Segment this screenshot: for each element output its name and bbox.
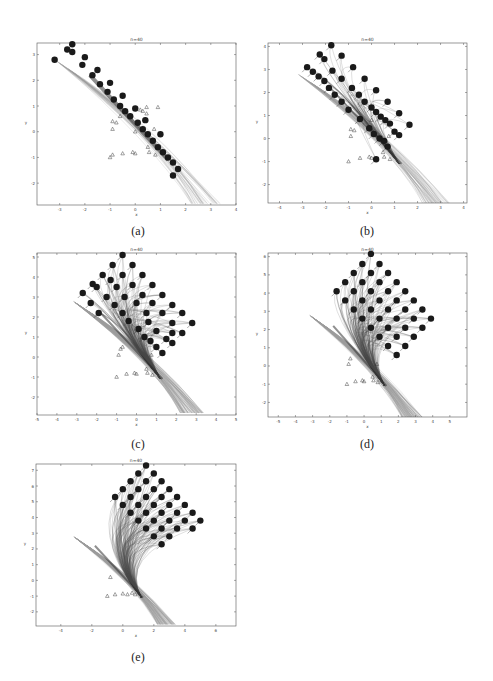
y-tick-label: 3 bbox=[32, 52, 35, 57]
x-tick-label: 3 bbox=[439, 205, 442, 210]
x-tick-label: -1 bbox=[345, 419, 349, 424]
caption-c: (c) bbox=[118, 437, 158, 452]
y-tick-label: 4 bbox=[31, 515, 34, 520]
x-axis-label: x bbox=[135, 212, 138, 217]
x-tick-label: -2 bbox=[83, 207, 87, 212]
caption-e: (e) bbox=[118, 650, 158, 665]
x-tick-label: 4 bbox=[184, 628, 187, 633]
y-tick-label: 1 bbox=[32, 104, 35, 109]
x-tick-label: -4 bbox=[278, 205, 282, 210]
x-tick-label: 2 bbox=[184, 207, 187, 212]
y-tick-label: -2 bbox=[31, 181, 35, 186]
y-tick-label: -2 bbox=[31, 395, 35, 400]
panel-c: -5-4-3-2-1012345-2-1012345xyn=40 bbox=[23, 245, 240, 429]
y-tick-label: 5 bbox=[263, 272, 266, 277]
caption-a: (a) bbox=[118, 224, 158, 239]
y-tick-label: 3 bbox=[32, 295, 35, 300]
x-tick-label: -2 bbox=[90, 628, 94, 633]
y-tick-label: 0 bbox=[263, 363, 266, 368]
x-tick-label: 1 bbox=[155, 417, 158, 422]
x-tick-label: 0 bbox=[122, 628, 125, 633]
y-tick-label: 5 bbox=[31, 499, 34, 504]
triangle-markers bbox=[108, 105, 159, 158]
y-tick-label: 1 bbox=[31, 562, 34, 567]
x-tick-label: 4 bbox=[462, 205, 465, 210]
x-axis-label: x bbox=[366, 210, 369, 215]
x-tick-label: 4 bbox=[235, 207, 238, 212]
x-tick-label: 0 bbox=[370, 205, 373, 210]
plot-b: -4-3-2-101234-2-101234xyn=40 bbox=[254, 35, 471, 217]
y-tick-label: 1 bbox=[32, 335, 35, 340]
y-tick-label: -2 bbox=[262, 400, 266, 405]
panel-a: -3-2-101234-2-10123xyn=40 bbox=[23, 35, 240, 219]
y-tick-label: -2 bbox=[262, 182, 266, 187]
y-tick-label: 4 bbox=[263, 44, 266, 49]
x-tick-label: 1 bbox=[159, 207, 162, 212]
x-tick-label: -1 bbox=[347, 205, 351, 210]
y-axis-label: y bbox=[256, 331, 259, 336]
trajectory-lines bbox=[55, 60, 220, 203]
x-tick-label: 4 bbox=[215, 417, 218, 422]
x-tick-label: 3 bbox=[210, 207, 213, 212]
y-tick-label: 6 bbox=[263, 254, 266, 259]
x-tick-label: -2 bbox=[95, 417, 99, 422]
trajectory-lines bbox=[298, 45, 450, 203]
y-tick-label: 0 bbox=[32, 129, 35, 134]
x-tick-label: -1 bbox=[115, 417, 119, 422]
plot-title: n=40 bbox=[130, 37, 142, 42]
y-tick-label: 2 bbox=[263, 90, 266, 95]
y-tick-label: 3 bbox=[263, 309, 266, 314]
x-tick-label: 2 bbox=[416, 205, 419, 210]
y-axis-label: y bbox=[256, 119, 259, 124]
x-tick-label: -4 bbox=[293, 419, 297, 424]
y-tick-label: 0 bbox=[263, 136, 266, 141]
y-axis-label: y bbox=[25, 120, 28, 125]
y-tick-label: 4 bbox=[263, 291, 266, 296]
y-tick-label: 2 bbox=[32, 315, 35, 320]
y-tick-label: -1 bbox=[31, 155, 35, 160]
x-axis-label: x bbox=[135, 633, 138, 638]
x-axis-label: x bbox=[366, 424, 369, 429]
y-tick-label: 6 bbox=[31, 484, 34, 489]
plot-a: -3-2-101234-2-10123xyn=40 bbox=[23, 35, 240, 219]
x-tick-label: -4 bbox=[55, 417, 59, 422]
x-tick-label: -4 bbox=[59, 628, 63, 633]
y-tick-label: 0 bbox=[32, 355, 35, 360]
caption-d: (d) bbox=[347, 437, 387, 452]
y-tick-label: -1 bbox=[30, 594, 34, 599]
plot-title: n=40 bbox=[130, 458, 142, 463]
panel-b: -4-3-2-101234-2-101234xyn=40 bbox=[254, 35, 471, 217]
x-tick-label: -3 bbox=[58, 207, 62, 212]
plot-d: -5-4-3-2-1012345-2-10123456xyn=40 bbox=[254, 245, 471, 431]
x-tick-label: 4 bbox=[431, 419, 434, 424]
caption-b: (b) bbox=[347, 224, 387, 239]
x-tick-label: 3 bbox=[414, 419, 417, 424]
y-tick-label: -1 bbox=[31, 375, 35, 380]
plot-e: -4-20246-2-101234567xyn=40 bbox=[22, 456, 240, 640]
y-axis-label: y bbox=[25, 330, 28, 335]
x-tick-label: 2 bbox=[397, 419, 400, 424]
x-tick-label: 2 bbox=[175, 417, 178, 422]
x-tick-label: 3 bbox=[195, 417, 198, 422]
x-tick-label: 5 bbox=[235, 417, 238, 422]
x-tick-label: 6 bbox=[215, 628, 218, 633]
plot-title: n=40 bbox=[361, 37, 373, 42]
x-tick-label: -3 bbox=[301, 205, 305, 210]
x-tick-label: -5 bbox=[35, 417, 39, 422]
y-tick-label: 1 bbox=[263, 113, 266, 118]
y-tick-label: 2 bbox=[32, 78, 35, 83]
plot-title: n=40 bbox=[130, 247, 142, 252]
y-axis-label: y bbox=[24, 541, 27, 546]
y-tick-label: 2 bbox=[31, 546, 34, 551]
axes-frame bbox=[268, 253, 467, 417]
y-tick-label: 1 bbox=[263, 345, 266, 350]
y-tick-label: -1 bbox=[262, 159, 266, 164]
x-tick-label: 1 bbox=[393, 205, 396, 210]
y-tick-label: 4 bbox=[32, 275, 35, 280]
x-tick-label: 5 bbox=[449, 419, 452, 424]
x-tick-label: -1 bbox=[108, 207, 112, 212]
x-tick-label: -3 bbox=[311, 419, 315, 424]
y-tick-label: -2 bbox=[30, 609, 34, 614]
y-tick-label: 7 bbox=[31, 468, 34, 473]
x-axis-label: x bbox=[135, 422, 138, 427]
